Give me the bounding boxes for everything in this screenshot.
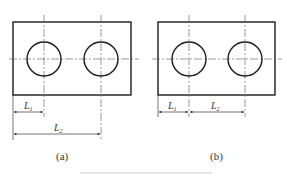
label-b-l2: L2 [210,100,220,112]
label-a-l2: L2 [53,122,63,134]
caption-b: (b) [210,150,223,162]
label-a-l1: L1 [23,100,33,112]
caption-a: (a) [56,150,68,162]
label-b-l1: L1 [167,100,177,112]
plate-outline [158,22,275,95]
plate-outline [13,22,131,95]
drawing-canvas: L1 L2 L1 L2 [0,0,287,176]
figure-a [9,15,139,140]
divider-rule [80,172,212,174]
